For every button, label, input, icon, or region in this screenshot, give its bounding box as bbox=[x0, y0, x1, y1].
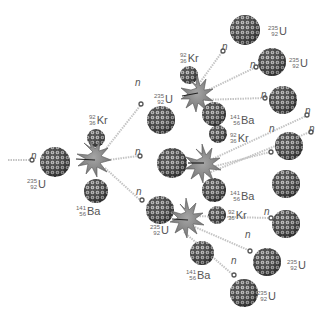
neutron-label: n bbox=[135, 147, 141, 157]
element-symbol: Kr bbox=[238, 133, 249, 144]
kr92-label: 9236Kr bbox=[89, 114, 108, 126]
u235-label: 23592U bbox=[257, 290, 276, 302]
ba141-label: 14156Ba bbox=[230, 114, 254, 126]
neutron-icon bbox=[269, 150, 273, 154]
element-symbol: Kr bbox=[188, 53, 199, 64]
isotope-numbers: 23592 bbox=[27, 178, 37, 190]
element-symbol: Kr bbox=[236, 210, 247, 221]
isotope-numbers: 23592 bbox=[154, 93, 164, 105]
kr92-label: 9236Kr bbox=[180, 52, 199, 64]
neutron-label: n bbox=[136, 187, 142, 197]
u235-nucleus-target-2 bbox=[258, 48, 286, 76]
element-symbol: U bbox=[38, 179, 46, 190]
atomic-number: 92 bbox=[268, 31, 278, 37]
u235-label: 23592U bbox=[289, 57, 308, 69]
u235-nucleus-initial bbox=[40, 147, 70, 177]
isotope-numbers: 23592 bbox=[150, 224, 160, 236]
isotope-numbers: 23592 bbox=[289, 57, 299, 69]
atomic-number: 92 bbox=[27, 184, 37, 190]
element-symbol: U bbox=[268, 291, 276, 302]
u235-nucleus-target-6 bbox=[272, 210, 300, 238]
element-symbol: U bbox=[298, 260, 306, 271]
u235-nucleus-gen2-top bbox=[147, 106, 175, 134]
atomic-number: 56 bbox=[76, 211, 86, 217]
isotope-numbers: 14156 bbox=[230, 190, 240, 202]
u235-label: 23592U bbox=[150, 224, 169, 236]
neutron-label: n bbox=[264, 207, 270, 217]
ba141-label: 14156Ba bbox=[76, 205, 100, 217]
fission-burst-icon bbox=[170, 198, 204, 238]
element-symbol: U bbox=[279, 26, 287, 37]
isotope-numbers: 23592 bbox=[257, 290, 267, 302]
u235-nucleus-gen2-bot bbox=[146, 196, 174, 224]
atomic-number: 56 bbox=[230, 196, 240, 202]
kr92-label: 9236Kr bbox=[230, 132, 249, 144]
kr92-nucleus-4 bbox=[208, 206, 226, 224]
u235-nucleus-target-1 bbox=[230, 15, 260, 45]
neutron-label: n bbox=[261, 90, 267, 100]
isotope-numbers: 9236 bbox=[180, 52, 187, 64]
ba141-label: 14156Ba bbox=[230, 190, 254, 202]
isotope-numbers: 14156 bbox=[230, 114, 240, 126]
element-symbol: Kr bbox=[97, 115, 108, 126]
atomic-number: 36 bbox=[230, 138, 237, 144]
element-symbol: Ba bbox=[241, 191, 254, 202]
neutron-label: n bbox=[231, 256, 237, 266]
neutron-label: n bbox=[305, 106, 311, 116]
element-symbol: U bbox=[161, 225, 169, 236]
atomic-number: 56 bbox=[230, 120, 240, 126]
isotope-numbers: 23592 bbox=[268, 25, 278, 37]
atomic-number: 92 bbox=[150, 230, 160, 236]
element-symbol: U bbox=[165, 94, 173, 105]
atomic-number: 92 bbox=[257, 296, 267, 302]
isotope-numbers: 9236 bbox=[230, 132, 237, 144]
isotope-numbers: 14156 bbox=[186, 269, 196, 281]
u235-label: 23592U bbox=[268, 25, 287, 37]
isotope-numbers: 9236 bbox=[89, 114, 96, 126]
u235-nucleus-gen2-mid bbox=[157, 148, 187, 178]
isotope-numbers: 9236 bbox=[228, 209, 235, 221]
kr92-label: 9236Kr bbox=[228, 209, 247, 221]
u235-nucleus-target-3 bbox=[269, 86, 297, 114]
atomic-number: 36 bbox=[228, 215, 235, 221]
neutron-icon bbox=[139, 102, 143, 106]
element-symbol: U bbox=[300, 58, 308, 69]
u235-nucleus-target-5 bbox=[272, 170, 300, 198]
neutron-label: n bbox=[222, 42, 228, 52]
neutron-label: n bbox=[135, 78, 141, 88]
neutron-icon bbox=[248, 249, 252, 253]
isotope-numbers: 23592 bbox=[287, 259, 297, 271]
ba141-nucleus-4 bbox=[190, 241, 214, 265]
atomic-number: 36 bbox=[89, 120, 96, 126]
kr92-nucleus-3 bbox=[209, 125, 227, 143]
element-symbol: Ba bbox=[241, 115, 254, 126]
u235-label: 23592U bbox=[27, 178, 46, 190]
ba141-nucleus-1 bbox=[84, 179, 108, 203]
kr92-nucleus-1 bbox=[87, 129, 105, 147]
u235-nucleus-target-4 bbox=[275, 132, 303, 160]
ba141-nucleus-3 bbox=[202, 178, 226, 202]
atomic-number: 92 bbox=[289, 63, 299, 69]
atomic-number: 56 bbox=[186, 275, 196, 281]
neutron-label: n bbox=[309, 124, 315, 134]
neutron-label: n bbox=[269, 124, 275, 134]
ba141-nucleus-2 bbox=[202, 102, 226, 126]
atomic-number: 36 bbox=[180, 58, 187, 64]
neutron-icon bbox=[232, 273, 236, 277]
atomic-number: 92 bbox=[287, 265, 297, 271]
isotope-numbers: 14156 bbox=[76, 205, 86, 217]
ba141-label: 14156Ba bbox=[186, 269, 210, 281]
neutron-label: n bbox=[31, 151, 37, 161]
u235-label: 23592U bbox=[287, 259, 306, 271]
fission-chain-diagram bbox=[0, 0, 322, 320]
atomic-number: 92 bbox=[154, 99, 164, 105]
u235-label: 23592U bbox=[154, 93, 173, 105]
neutron-label: n bbox=[245, 230, 251, 240]
element-symbol: Ba bbox=[197, 270, 210, 281]
u235-nucleus-target-8 bbox=[230, 279, 258, 307]
element-symbol: Ba bbox=[87, 206, 100, 217]
neutron-label: n bbox=[250, 60, 256, 70]
neutron-icon bbox=[140, 198, 144, 202]
u235-nucleus-target-7 bbox=[253, 248, 281, 276]
kr92-nucleus-2 bbox=[180, 66, 198, 84]
